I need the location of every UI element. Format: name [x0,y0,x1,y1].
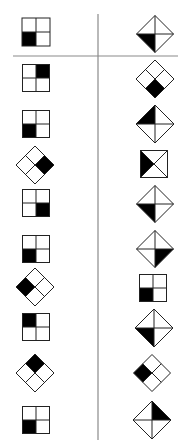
right-figure [141,151,168,178]
figure-row [16,146,168,184]
left-figure [16,268,54,306]
left-figure [16,146,54,184]
header-left-figure [22,18,50,46]
right-figure [133,401,171,439]
figure-row [16,268,167,306]
left-figure [23,314,50,341]
left-figure [23,111,50,138]
left-figure [23,407,50,434]
left-figure [16,354,54,392]
left-figure [23,236,50,263]
left-figure [23,65,50,92]
figure-rows [16,60,174,439]
right-figure [137,231,174,268]
right-figure [134,355,171,392]
figure-table [0,0,188,446]
right-figure [137,186,174,223]
header-right-figure [137,16,174,53]
figure-row [23,401,172,439]
left-figure [23,190,50,217]
figure-row [16,354,171,392]
right-figure [140,275,167,302]
right-figure [136,60,174,98]
right-figure [136,105,174,143]
right-figure [135,309,173,347]
